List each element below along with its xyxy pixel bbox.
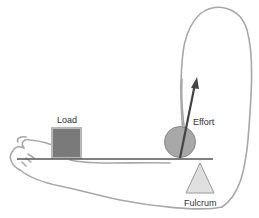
- lever-diagram: [0, 0, 259, 218]
- fulcrum-label: Fulcrum: [184, 199, 217, 208]
- load-label: Load: [57, 116, 77, 125]
- effort-label: Effort: [193, 118, 214, 127]
- arm-outline: [10, 7, 251, 208]
- fulcrum-triangle: [186, 163, 214, 193]
- load-box: [52, 128, 81, 158]
